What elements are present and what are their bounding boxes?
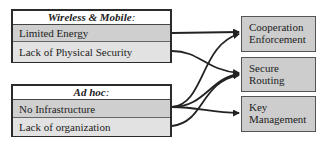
- group-title: Wireless & Mobile: [48, 11, 132, 23]
- arrow-no-infra-to-secure-routing: [172, 74, 239, 107]
- target-label: Secure: [249, 62, 315, 74]
- group-title: Ad hoc: [74, 86, 106, 98]
- target-cooperation-enforcement: Cooperation Enforcement: [241, 16, 316, 52]
- group-header: Ad hoc:: [13, 86, 170, 100]
- arrow-no-infra-to-key-management: [172, 107, 239, 113]
- target-label: Routing: [249, 74, 315, 86]
- group-header: Wireless & Mobile:: [13, 11, 170, 25]
- item-no-infrastructure: No Infrastructure: [13, 100, 170, 118]
- arrow-limited-energy-to-cooperation: [172, 32, 239, 33]
- group-ad-hoc: Ad hoc: No Infrastructure Lack of organi…: [11, 84, 172, 137]
- arrow-physical-security-to-secure-routing: [172, 51, 239, 73]
- target-label: Management: [249, 113, 315, 125]
- group-wireless-mobile: Wireless & Mobile: Limited Energy Lack o…: [11, 9, 172, 63]
- target-key-management: Key Management: [241, 96, 316, 132]
- arrow-lack-org-to-secure-routing: [172, 75, 239, 126]
- item-limited-energy: Limited Energy: [13, 25, 170, 42]
- arrow-no-infra-to-cooperation: [172, 34, 239, 107]
- target-label: Enforcement: [249, 33, 315, 45]
- target-label: Cooperation: [249, 21, 315, 33]
- target-secure-routing: Secure Routing: [241, 57, 316, 92]
- item-lack-of-physical-security: Lack of Physical Security: [13, 42, 170, 62]
- item-lack-of-organization: Lack of organization: [13, 118, 170, 136]
- target-label: Key: [249, 101, 315, 113]
